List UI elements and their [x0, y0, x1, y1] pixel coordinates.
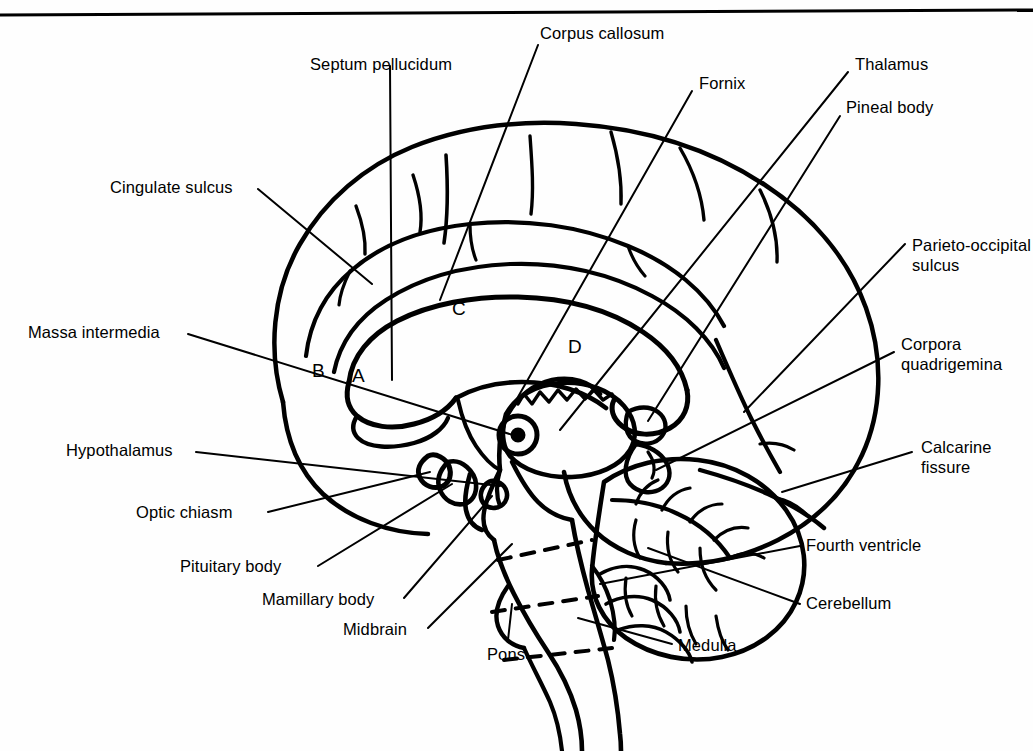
label-pons: Pons	[487, 645, 525, 664]
leader-cingulate-sulcus	[258, 189, 372, 284]
sulcus-occipital-upper	[760, 190, 777, 262]
arbor-vitae-branch-4	[714, 528, 748, 541]
corpus-callosum-splenium	[612, 390, 688, 434]
region-letter-d: D	[568, 336, 582, 358]
label-septum-pellucidum: Septum pellucidum	[310, 55, 452, 74]
sulcus-frontal-2	[413, 175, 421, 232]
pons-medulla-boundary-dashed	[492, 596, 598, 612]
label-thalamus: Thalamus	[855, 55, 928, 74]
label-parieto-occipital-sulcus-line1: Parieto-occipital	[912, 236, 1031, 255]
label-calcarine-fissure-line2: fissure	[921, 458, 970, 477]
arbor-vitae-branch-6	[634, 520, 640, 558]
sulcus-parietal-1	[611, 132, 621, 204]
label-cingulate-sulcus: Cingulate sulcus	[110, 178, 233, 197]
calcarine-fissure-line	[700, 470, 824, 528]
label-corpus-callosum: Corpus callosum	[540, 24, 664, 43]
leader-pineal-body	[648, 116, 840, 421]
region-letter-c: C	[452, 298, 466, 320]
septum-pellucidum-shape	[458, 400, 500, 470]
fornix-body	[499, 379, 600, 470]
cingulate-sulcus-line	[306, 222, 724, 356]
sulcus-paracentral	[530, 136, 533, 214]
region-letter-b: B	[312, 360, 325, 382]
label-midbrain: Midbrain	[343, 620, 407, 639]
top-rule	[0, 10, 1033, 15]
leader-mamillary-body	[404, 496, 492, 598]
label-corpora-quadrigemina-line1: Corpora	[901, 335, 961, 354]
region-letter-a: A	[352, 365, 365, 387]
leader-hypothalamus	[196, 452, 500, 486]
label-hypothalamus: Hypothalamus	[66, 441, 173, 460]
figure-page: Cingulate sulcus Septum pellucidum Corpu…	[0, 0, 1033, 751]
label-corpora-quadrigemina-line2: quadrigemina	[901, 355, 1002, 374]
leader-septum-pellucidum	[390, 66, 392, 380]
label-calcarine-fissure-line1: Calcarine	[921, 438, 992, 457]
arbor-vitae-trunk	[612, 500, 730, 558]
pineal-body-shape	[626, 408, 666, 444]
leader-fornix	[506, 91, 692, 418]
corpus-callosum-superior	[349, 297, 687, 390]
label-fourth-ventricle: Fourth ventricle	[806, 536, 921, 555]
label-cerebellum: Cerebellum	[806, 594, 891, 613]
leader-corpora-quadrigemina	[656, 352, 894, 470]
label-mamillary-body: Mamillary body	[262, 590, 374, 609]
tectum-ridge	[648, 452, 654, 478]
label-pituitary-body: Pituitary body	[180, 557, 281, 576]
sulcus-parietal-2	[680, 148, 704, 220]
leader-pituitary-body	[318, 484, 452, 566]
leader-pons	[508, 604, 512, 640]
leader-optic-chiasm	[268, 472, 430, 512]
optic-chiasm-shape	[418, 455, 450, 488]
sulcus-superior-frontal	[356, 206, 365, 254]
label-fornix: Fornix	[699, 74, 745, 93]
label-medulla: Medulla	[678, 636, 736, 655]
label-massa-intermedia: Massa intermedia	[28, 323, 160, 342]
parieto-occipital-sulcus-line	[716, 340, 780, 472]
label-pineal-body: Pineal body	[846, 98, 933, 117]
label-parieto-occipital-sulcus-line2: sulcus	[912, 256, 959, 275]
arbor-vitae-branch-7	[667, 532, 678, 572]
label-optic-chiasm: Optic chiasm	[136, 503, 233, 522]
leader-calcarine-fissure	[782, 452, 912, 492]
cingulate-branch-2	[470, 224, 476, 260]
arbor-vitae-branch-3	[690, 504, 722, 522]
